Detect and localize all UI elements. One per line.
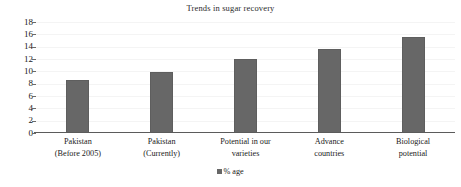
x-axis-label-line: (Currently) (120, 148, 204, 160)
bar (66, 80, 89, 133)
y-axis-tick-label: 14 (3, 42, 33, 51)
x-axis-label-line: Pakistan (120, 136, 204, 148)
x-axis-line (34, 132, 455, 133)
x-axis-label-line: Advance (287, 136, 371, 148)
y-axis-tick-label: 8 (3, 79, 33, 88)
bar (402, 37, 425, 133)
y-axis-tick-label: 6 (3, 92, 33, 101)
x-axis-label-line: varieties (204, 148, 288, 160)
x-axis-category-labels: Pakistan(Before 2005)Pakistan(Currently)… (36, 136, 455, 170)
x-axis-category-label: Advancecountries (287, 136, 371, 159)
chart-legend: % age (0, 167, 461, 176)
bar-chart: Trends in sugar recovery 181614121086420… (0, 0, 461, 187)
x-axis-category-label: Pakistan(Before 2005) (36, 136, 120, 159)
gridline (36, 47, 455, 48)
y-axis-tick-label: 16 (3, 30, 33, 39)
y-axis-tick-label: 2 (3, 116, 33, 125)
y-axis-tick-label: 18 (3, 18, 33, 27)
gridline (36, 22, 455, 23)
chart-title: Trends in sugar recovery (0, 3, 461, 13)
x-axis-category-label: Biologicalpotential (371, 136, 455, 159)
gridline (36, 34, 455, 35)
x-axis-label-line: (Before 2005) (36, 148, 120, 160)
bar (150, 72, 173, 133)
plot-area (36, 22, 455, 133)
x-axis-label-line: countries (287, 148, 371, 160)
y-axis-tick-label: 0 (3, 129, 33, 138)
bar (234, 59, 257, 133)
legend-swatch-icon (217, 169, 222, 174)
legend-item-percent-age: % age (217, 167, 243, 176)
y-axis-tick-labels: 181614121086420 (0, 0, 33, 155)
x-axis-label-line: Biological (371, 136, 455, 148)
x-axis-label-line: Pakistan (36, 136, 120, 148)
x-axis-label-line: Potential in our (204, 136, 288, 148)
y-axis-tick-label: 10 (3, 67, 33, 76)
x-axis-category-label: Pakistan(Currently) (120, 136, 204, 159)
x-axis-label-line: potential (371, 148, 455, 160)
y-axis-tick-label: 4 (3, 104, 33, 113)
bar (318, 49, 341, 133)
y-axis-tick-label: 12 (3, 55, 33, 64)
legend-label: % age (223, 167, 243, 176)
x-axis-category-label: Potential in ourvarieties (204, 136, 288, 159)
